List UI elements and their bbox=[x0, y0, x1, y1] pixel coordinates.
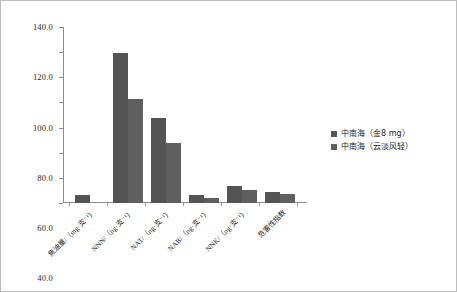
y-tick-label: 60.0 bbox=[37, 223, 53, 233]
legend-label: 中南海（云淡风轻） bbox=[341, 140, 413, 153]
x-axis-label: 焦油量/（mg·支⁻¹） bbox=[45, 207, 97, 259]
bar bbox=[128, 99, 143, 203]
y-tick-label: 140.0 bbox=[33, 22, 53, 32]
bar-group bbox=[151, 27, 181, 203]
bar bbox=[113, 53, 128, 203]
x-tick-mark bbox=[69, 203, 70, 206]
y-tick-mark: 60.0 bbox=[59, 128, 63, 129]
y-tick-label: 80.0 bbox=[37, 173, 53, 183]
y-tick-label: 40.0 bbox=[37, 273, 53, 283]
x-axis-label: 危害性指数 bbox=[255, 207, 287, 239]
x-tick-mark bbox=[297, 203, 298, 206]
bar-group bbox=[265, 27, 295, 203]
y-tick-label: 120.0 bbox=[33, 72, 53, 82]
y-tick-mark: 0 bbox=[59, 203, 63, 204]
y-tick-mark: 20.0 bbox=[59, 178, 63, 179]
bar-group bbox=[189, 27, 219, 203]
bar-group bbox=[75, 27, 105, 203]
bar-group bbox=[227, 27, 257, 203]
bar bbox=[151, 118, 166, 203]
plot-area: 140.0120.0100.080.060.040.020.00 bbox=[63, 27, 293, 203]
x-tick-mark bbox=[259, 203, 260, 206]
y-tick-label: 100.0 bbox=[33, 123, 53, 133]
y-tick-mark: 100.0 bbox=[59, 77, 63, 78]
y-tick-mark: 140.0 bbox=[59, 27, 63, 28]
legend-label: 中南海（金8 mg） bbox=[341, 127, 410, 140]
bar bbox=[166, 143, 181, 203]
y-tick-mark: 40.0 bbox=[59, 153, 63, 154]
x-tick-mark bbox=[221, 203, 222, 206]
bar bbox=[75, 195, 90, 203]
x-tick-mark bbox=[145, 203, 146, 206]
legend-swatch bbox=[331, 131, 337, 137]
bar bbox=[189, 195, 204, 203]
y-tick-mark: 120.0 bbox=[59, 52, 63, 53]
legend-item[interactable]: 中南海（云淡风轻） bbox=[331, 140, 413, 153]
bar bbox=[204, 198, 219, 203]
bar bbox=[280, 194, 295, 203]
chart-figure: 140.0120.0100.080.060.040.020.00 焦油量/（mg… bbox=[0, 0, 457, 292]
x-tick-mark bbox=[183, 203, 184, 206]
bar bbox=[242, 190, 257, 203]
legend-item[interactable]: 中南海（金8 mg） bbox=[331, 127, 413, 140]
legend-swatch bbox=[331, 144, 337, 150]
bar-group bbox=[113, 27, 143, 203]
y-tick-mark: 80.0 bbox=[59, 102, 63, 103]
bar bbox=[265, 192, 280, 203]
x-tick-mark bbox=[107, 203, 108, 206]
chart-legend: 中南海（金8 mg）中南海（云淡风轻） bbox=[331, 127, 413, 153]
bar bbox=[227, 186, 242, 203]
